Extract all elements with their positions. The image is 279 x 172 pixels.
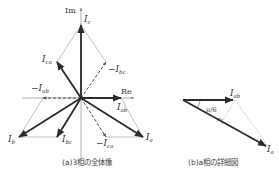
imag-axis-label: Im [65,6,76,15]
label-neg-I-ca: −Ica [96,138,113,149]
label-b-I-a: Ia [266,144,274,155]
label-I-ca: Ica [41,54,52,65]
angle-arc [198,100,200,107]
label-I-bc: Ibc [61,134,72,145]
label-neg-I-bc: −Ibc [108,64,126,75]
panel-b: Iab Ia π/6 (b)a相の詳細図 [183,88,274,167]
real-axis-label: Re [121,87,132,96]
construction-lines-b [221,100,268,146]
caption-b: (b)a相の詳細図 [188,157,238,167]
vector-neg-I-bc [81,62,106,98]
three-phase-phasor-diagram: Im Re Ic Ica −Ibc −Ia [0,0,279,172]
angle-label: π/6 [206,106,217,114]
dashed-vectors [43,62,106,137]
label-I-c: Ic [83,14,91,25]
label-b-I-ab: Iab [229,88,241,99]
caption-a: (a)3相の全体像 [62,157,113,167]
label-neg-I-ab: −Iab [31,83,49,94]
vector-I-b [19,98,81,137]
label-I-b: Ib [7,134,16,145]
panel-a: Im Re Ic Ica −Ibc −Ia [7,6,153,167]
vector-I-bc [57,98,81,137]
vector-I-a [81,98,143,137]
vector-neg-I-ca [81,98,106,137]
vector-I-ca [57,62,81,98]
label-I-a: Ia [145,132,153,143]
vector-b-I-a [183,100,266,146]
label-I-ab: Iab [116,102,128,113]
